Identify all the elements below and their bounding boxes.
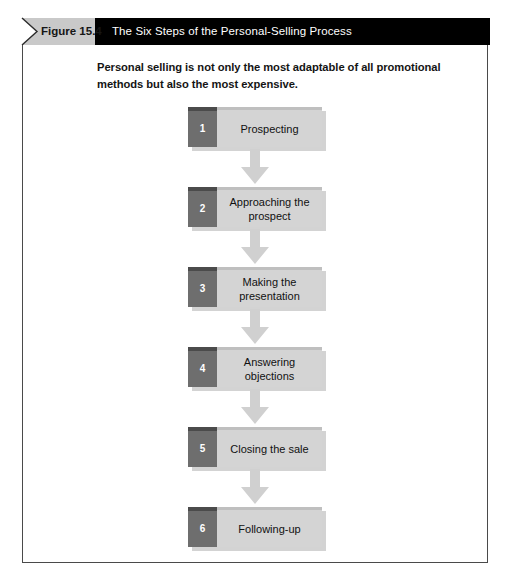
flow-arrow-down-icon-3 [240, 309, 270, 345]
flow-arrow-down-icon-1 [240, 149, 270, 185]
step-label: Closing the sale [217, 430, 322, 467]
step-number: 5 [188, 430, 217, 467]
step-number: 6 [188, 510, 217, 547]
process-step-1: 1 Prospecting [188, 107, 322, 147]
step-number: 4 [188, 350, 217, 387]
step-label: Prospecting [217, 110, 322, 147]
step-body: 5 Closing the sale [188, 427, 322, 467]
flow-arrow-down-icon-5 [240, 469, 270, 505]
figure-header: The Six Steps of the Personal-Selling Pr… [22, 18, 490, 45]
step-body: 2 Approaching the prospect [188, 187, 322, 227]
step-label: Approaching the prospect [217, 190, 322, 227]
process-step-3: 3 Making the presentation [188, 267, 322, 307]
step-number: 2 [188, 190, 217, 227]
step-body: 1 Prospecting [188, 107, 322, 147]
process-step-2: 2 Approaching the prospect [188, 187, 322, 227]
figure-container: The Six Steps of the Personal-Selling Pr… [0, 0, 507, 581]
bottom-caption [26, 573, 481, 581]
process-step-5: 5 Closing the sale [188, 427, 322, 467]
flow-arrow-down-icon-2 [240, 229, 270, 265]
flow-arrow-down-icon-4 [240, 389, 270, 425]
step-body: 4 Answering objections [188, 347, 322, 387]
step-number: 1 [188, 110, 217, 147]
step-number: 3 [188, 270, 217, 307]
process-step-6: 6 Following-up [188, 507, 322, 547]
figure-intro-text: Personal selling is not only the most ad… [97, 59, 489, 92]
process-step-4: 4 Answering objections [188, 347, 322, 387]
figure-header-bar: The Six Steps of the Personal-Selling Pr… [95, 18, 490, 45]
step-label: Answering objections [217, 350, 322, 387]
figure-title: The Six Steps of the Personal-Selling Pr… [112, 18, 352, 45]
figure-number-label: Figure 15.4 [41, 18, 102, 45]
step-label: Making the presentation [217, 270, 322, 307]
step-body: 6 Following-up [188, 507, 322, 547]
step-label: Following-up [217, 510, 322, 547]
step-body: 3 Making the presentation [188, 267, 322, 307]
